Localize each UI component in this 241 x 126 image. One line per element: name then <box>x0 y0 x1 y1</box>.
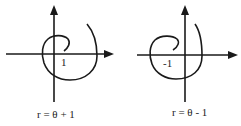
x-axis-arrow-icon <box>228 51 238 59</box>
y-axis-arrow-icon <box>50 5 58 15</box>
y-axis-arrow-icon <box>181 5 189 15</box>
axis-label-minus-one: -1 <box>163 58 172 69</box>
x-axis-arrow-icon <box>104 50 114 58</box>
spiral-curve <box>42 24 97 80</box>
axis-label-one: 1 <box>61 57 67 68</box>
caption-right: r = θ - 1 <box>172 107 207 118</box>
figure-right <box>137 5 238 102</box>
caption-left: r = θ + 1 <box>37 109 75 120</box>
figure-left <box>6 5 114 102</box>
spiral-curve <box>150 24 202 79</box>
